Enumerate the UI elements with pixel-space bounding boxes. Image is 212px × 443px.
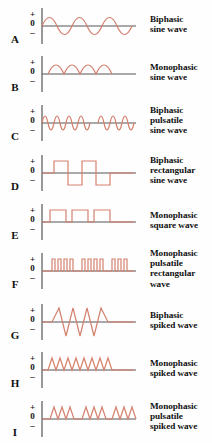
panel-caption-D: Biphasic rectangular sine wave — [150, 155, 195, 186]
panel-letter-A: A — [8, 33, 22, 45]
axis-tick-minus: – — [27, 273, 38, 282]
waveform-plot-G — [40, 302, 138, 342]
axis-tick-minus: – — [27, 372, 38, 381]
waveform-row-G: G + 0 – Biphasic spiked wave — [0, 296, 212, 344]
waveform-plot-I — [40, 399, 138, 439]
panel-letter-F: F — [8, 278, 22, 290]
panel-letter-B: B — [8, 81, 22, 93]
waveform-row-I: I + 0 – Monophasic pulsatile spiked wave — [0, 392, 212, 443]
axis-tick-minus: – — [27, 125, 38, 134]
waveform-row-B: B + 0 – Monophasic sine wave — [0, 48, 212, 96]
waveform-plot-B — [40, 54, 138, 94]
waveform-plot-H — [40, 350, 138, 390]
panel-caption-F: Monophasic pulsatile rectangular wave — [150, 248, 198, 289]
panel-caption-C: Biphasic pulsatile sine wave — [150, 105, 187, 136]
waveform-row-C: C + 0 – Biphasic pulsatile sine wave — [0, 96, 212, 146]
panel-letter-I: I — [8, 426, 22, 438]
axis-labels-H: + 0 – — [27, 354, 38, 381]
axis-tick-minus: – — [27, 76, 38, 85]
waveform-plot-F — [40, 251, 138, 291]
panel-letter-E: E — [8, 229, 22, 241]
axis-tick-minus: – — [27, 421, 38, 430]
axis-labels-F: + 0 – — [27, 255, 38, 282]
axis-tick-minus: – — [27, 324, 38, 333]
panel-caption-G: Biphasic spiked wave — [150, 310, 197, 330]
panel-caption-H: Monophasic spiked wave — [150, 358, 198, 378]
panel-letter-G: G — [8, 329, 22, 341]
panel-caption-A: Biphasic sine wave — [150, 14, 187, 34]
panel-caption-E: Monophasic square wave — [150, 210, 198, 230]
waveform-plot-E — [40, 202, 138, 242]
waveform-plot-D — [40, 153, 138, 193]
waveform-plot-A — [40, 6, 138, 46]
axis-tick-minus: – — [27, 28, 38, 37]
panel-letter-D: D — [8, 180, 22, 192]
waveform-figure: A + 0 – Biphasic sine wave B + 0 – — [0, 0, 212, 443]
waveform-row-F: F + 0 – Monophasic pulsatile rectangular… — [0, 244, 212, 296]
waveform-row-E: E + 0 – Monophasic square wave — [0, 196, 212, 244]
panel-letter-H: H — [8, 377, 22, 389]
axis-labels-I: + 0 – — [27, 403, 38, 430]
panel-caption-I: Monophasic pulsatile spiked wave — [150, 401, 198, 432]
axis-tick-minus: – — [27, 224, 38, 233]
axis-labels-A: + 0 – — [27, 10, 38, 37]
waveform-plot-C — [40, 103, 138, 143]
axis-tick-minus: – — [27, 175, 38, 184]
axis-labels-D: + 0 – — [27, 157, 38, 184]
waveform-row-D: D + 0 – Biphasic rectangular sine wave — [0, 146, 212, 196]
axis-labels-C: + 0 – — [27, 107, 38, 134]
waveform-row-A: A + 0 – Biphasic sine wave — [0, 0, 212, 48]
panel-letter-C: C — [8, 130, 22, 142]
waveform-row-H: H + 0 – Monophasic spiked wave — [0, 344, 212, 392]
axis-labels-E: + 0 – — [27, 206, 38, 233]
axis-labels-B: + 0 – — [27, 58, 38, 85]
panel-caption-B: Monophasic sine wave — [150, 62, 198, 82]
axis-labels-G: + 0 – — [27, 306, 38, 333]
